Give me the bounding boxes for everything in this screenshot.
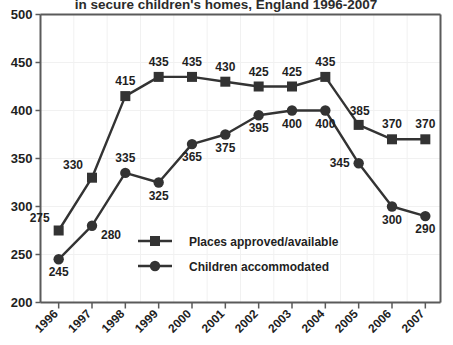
data-point-marker-square <box>420 134 430 144</box>
data-point-marker-circle <box>253 110 263 120</box>
data-point-marker-circle <box>220 129 230 139</box>
data-point-label: 400 <box>282 117 302 131</box>
data-point-marker-square <box>120 91 130 101</box>
chart-canvas: in secure children's homes, England 1996… <box>0 0 453 345</box>
data-point-marker-square <box>254 82 264 92</box>
data-point-label: 435 <box>315 55 335 69</box>
data-point-marker-square <box>154 72 164 82</box>
y-tick-label: 500 <box>11 7 33 22</box>
y-tick-label: 400 <box>11 103 33 118</box>
data-point-label: 370 <box>382 117 402 131</box>
legend-label: Children accommodated <box>189 260 329 274</box>
data-point-marker-circle <box>87 221 97 231</box>
data-point-label: 290 <box>415 222 435 236</box>
y-tick-label: 200 <box>11 295 33 310</box>
data-point-marker-circle <box>53 254 63 264</box>
data-point-label: 430 <box>215 60 235 74</box>
data-point-label: 370 <box>415 117 435 131</box>
data-point-label: 280 <box>101 228 121 242</box>
data-point-marker-circle <box>387 201 397 211</box>
data-point-label: 385 <box>350 104 370 118</box>
data-point-marker-square <box>187 72 197 82</box>
data-point-label: 325 <box>149 189 169 203</box>
data-point-marker-circle <box>320 105 330 115</box>
data-point-marker-circle <box>153 177 163 187</box>
data-point-label: 400 <box>315 117 335 131</box>
legend-label: Places approved/available <box>189 235 339 249</box>
data-point-label: 425 <box>282 65 302 79</box>
data-point-label: 330 <box>63 158 83 172</box>
data-point-label: 245 <box>49 265 69 279</box>
data-point-marker-square <box>354 120 364 130</box>
data-point-label: 365 <box>182 150 202 164</box>
data-point-marker-circle <box>287 105 297 115</box>
data-point-marker-circle <box>420 211 430 221</box>
data-point-label: 375 <box>215 141 235 155</box>
line-chart: in secure children's homes, England 1996… <box>0 0 453 345</box>
y-tick-label: 350 <box>11 151 33 166</box>
chart-background <box>0 0 453 345</box>
data-point-label: 300 <box>382 213 402 227</box>
data-point-marker-square <box>87 173 97 183</box>
data-point-marker-circle <box>353 158 363 168</box>
data-point-label: 415 <box>115 74 135 88</box>
data-point-label: 435 <box>149 55 169 69</box>
data-point-label: 275 <box>30 211 50 225</box>
y-tick-label: 450 <box>11 55 33 70</box>
data-point-marker-square <box>387 134 397 144</box>
data-point-marker-square <box>54 226 64 236</box>
y-tick-label: 250 <box>11 247 33 262</box>
legend-marker-square <box>150 236 160 246</box>
data-point-label: 345 <box>330 156 350 170</box>
data-point-marker-circle <box>187 139 197 149</box>
data-point-marker-square <box>287 82 297 92</box>
data-point-marker-circle <box>120 168 130 178</box>
data-point-label: 335 <box>115 151 135 165</box>
chart-title: in secure children's homes, England 1996… <box>75 0 378 12</box>
legend-marker-circle <box>150 261 160 271</box>
data-point-marker-square <box>320 72 330 82</box>
data-point-label: 425 <box>249 65 269 79</box>
data-point-marker-square <box>220 77 230 87</box>
data-point-label: 395 <box>249 121 269 135</box>
data-point-label: 435 <box>182 55 202 69</box>
